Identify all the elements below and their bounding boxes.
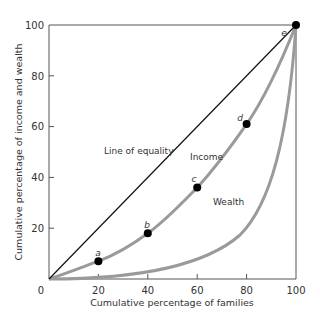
- x-tick-20: 20: [92, 285, 105, 296]
- wealth-label: Wealth: [213, 197, 244, 207]
- point-label-a: a: [95, 248, 101, 258]
- x-tick-80: 80: [240, 285, 253, 296]
- point-e: [292, 21, 300, 29]
- lorenz-curve-chart: 20 40 60 80 100 0 20 40 60 80 100 Cumula…: [0, 0, 320, 325]
- y-tick-100: 100: [25, 20, 44, 31]
- y-axis-label: Cumulative percentage of income and weal…: [13, 43, 24, 260]
- x-tick-40: 40: [141, 285, 154, 296]
- y-tick-40: 40: [31, 172, 44, 183]
- point-label-e: e: [281, 28, 287, 38]
- point-b: [144, 229, 152, 237]
- y-tick-60: 60: [31, 121, 44, 132]
- point-c: [193, 184, 201, 192]
- point-label-d: d: [237, 113, 243, 123]
- x-tick-100: 100: [286, 285, 305, 296]
- y-tick-20: 20: [31, 223, 44, 234]
- origin-label: 0: [38, 285, 44, 296]
- point-a: [94, 257, 102, 265]
- point-d: [243, 120, 251, 128]
- point-label-b: b: [144, 220, 150, 230]
- x-tick-60: 60: [191, 285, 204, 296]
- line-of-equality-label: Line of equality: [104, 146, 174, 156]
- data-points: a b c d e: [94, 21, 300, 265]
- income-label: Income: [190, 152, 224, 162]
- y-ticks: 20 40 60 80 100: [25, 20, 54, 234]
- point-label-c: c: [192, 174, 197, 184]
- y-tick-80: 80: [31, 71, 44, 82]
- x-axis-label: Cumulative percentage of families: [90, 297, 254, 308]
